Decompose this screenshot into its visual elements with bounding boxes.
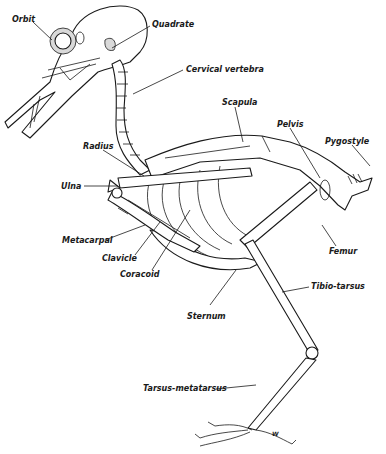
label-tibio-tarsus: Tibio-tarsus [311, 283, 365, 291]
artist-signature: W [272, 431, 279, 437]
label-clavicle: Clavicle [102, 255, 137, 263]
label-tarsus-metatarsus: Tarsus-metatarsus [143, 385, 227, 393]
label-scapula: Scapula [222, 99, 257, 107]
label-orbit: Orbit [12, 16, 35, 24]
label-quadrate: Quadrate [152, 21, 194, 29]
label-coracoid: Coracoid [120, 271, 159, 279]
label-sternum: Sternum [187, 313, 226, 321]
label-ulna: Ulna [61, 183, 81, 191]
label-cervical-vertebra: Cervical vertebra [186, 66, 264, 74]
label-metacarpal: Metacarpal [62, 237, 113, 245]
label-pelvis: Pelvis [277, 121, 304, 129]
label-pygostyle: Pygostyle [325, 138, 369, 146]
label-femur: Femur [329, 248, 357, 256]
bird-skeleton-diagram: Orbit Quadrate Cervical vertebra Scapula… [0, 0, 386, 454]
label-radius: Radius [83, 143, 113, 151]
